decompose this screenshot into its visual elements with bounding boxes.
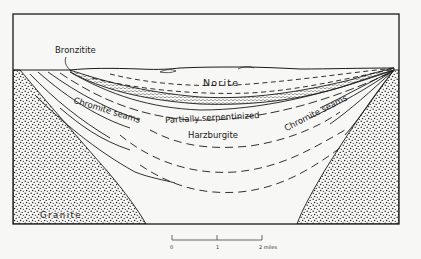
- scale-label-0: 0: [170, 245, 173, 250]
- label-norite: Norite: [203, 78, 239, 88]
- label-harzburgite: Harzburgite: [188, 131, 238, 140]
- scale-label-2-miles: 2 miles: [259, 245, 277, 250]
- bronzitite-leader: [65, 57, 70, 70]
- scale-label-1: 1: [216, 245, 219, 250]
- scale-bar: [172, 235, 262, 240]
- label-granite: Granite: [40, 211, 82, 220]
- ground-surface: [13, 67, 394, 70]
- label-bronzitite: Bronzitite: [55, 46, 96, 55]
